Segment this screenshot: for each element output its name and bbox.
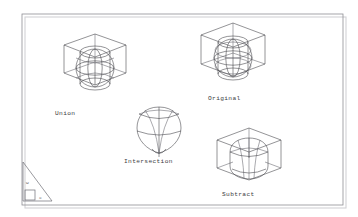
original-label: Original [208, 95, 241, 102]
figure-original: Original [201, 23, 265, 102]
wcs-coordinate-icon[interactable]: W X [23, 162, 52, 201]
wcs-w-label: W [26, 180, 29, 185]
figure-subtract: Subtract [217, 128, 281, 198]
union-label: Union [55, 110, 75, 117]
figure-union: Union [55, 34, 126, 117]
subtract-label: Subtract [222, 191, 255, 198]
union-box-wireframe [64, 34, 126, 85]
drawing-canvas: Union [0, 0, 358, 217]
intersection-label: Intersection [124, 158, 173, 165]
subtract-cavity [230, 138, 268, 179]
technical-drawing: Union [0, 0, 358, 217]
intersection-solid [137, 107, 181, 157]
figure-intersection: Intersection [124, 107, 181, 165]
wcs-x-label: X [39, 195, 42, 200]
